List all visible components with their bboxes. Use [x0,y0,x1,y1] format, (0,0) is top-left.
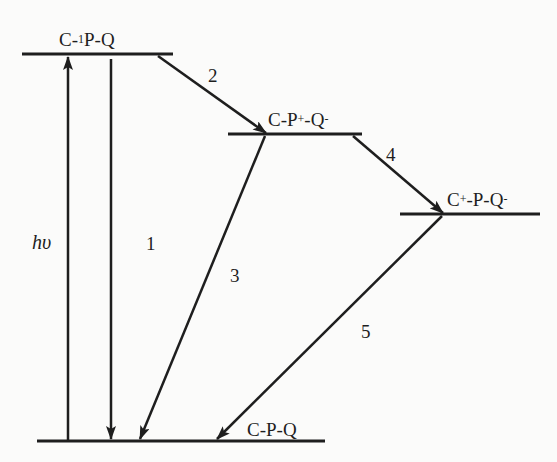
transition-1-label: 1 [146,234,156,253]
label-superscript: - [503,192,507,206]
level-cs1-label: C-P+-Q- [268,110,328,129]
label-part: -P-Q [466,189,503,210]
arrow-5 [217,216,442,439]
transition-5-label: 5 [361,322,371,341]
label-part: C-P-Q [247,419,297,440]
label-superscript: - [324,112,328,126]
label-superscript: + [460,192,467,206]
transition-2-label: 2 [208,66,218,85]
label-superscript: 1 [78,32,84,46]
transition-hv-label: hυ [32,232,51,252]
label-part: C [447,189,460,210]
arrow-4 [353,136,443,213]
label-part: P-Q [84,29,115,50]
energy-diagram-canvas [0,0,557,462]
transition-4-label: 4 [386,145,396,164]
label-part: C-P [268,109,298,130]
transition-3-label: 3 [230,266,240,285]
level-ground-label: C-P-Q [247,420,297,439]
level-excited-label: C-1P-Q [59,30,115,49]
label-superscript: + [298,112,305,126]
arrow-3 [140,136,265,439]
label-part: C- [59,29,78,50]
label-part: -Q [304,109,324,130]
level-cs2-label: C+-P-Q- [447,190,507,209]
